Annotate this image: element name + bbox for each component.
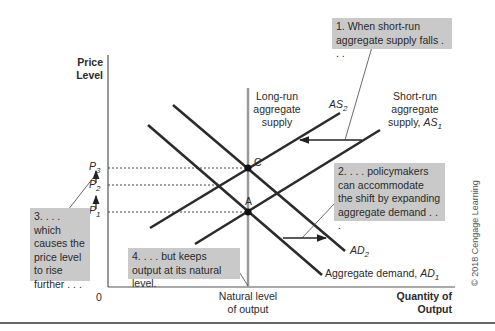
- p3-symbol: P: [89, 160, 96, 172]
- origin-label: 0: [96, 291, 102, 304]
- y-axis-label: Price Level: [70, 56, 103, 82]
- lras-label-line1: Long-run: [252, 90, 302, 103]
- natural-level-line2: of output: [208, 303, 288, 316]
- ad1-text: Aggregate demand,: [325, 267, 420, 279]
- p2-subscript: 2: [96, 184, 100, 193]
- p1-symbol: P: [89, 204, 96, 216]
- as2-subscript: 2: [343, 104, 347, 113]
- ad2-label: AD2: [350, 244, 369, 261]
- callout-step2: 2. . . . policymakers can accommodate th…: [334, 163, 445, 221]
- ad1-label: Aggregate demand, AD1: [325, 267, 439, 284]
- x-axis-label-line2: Output: [380, 303, 452, 316]
- p2-symbol: P: [89, 178, 96, 190]
- ad2-subscript: 2: [365, 250, 369, 259]
- lras-label-line3: supply: [252, 116, 302, 129]
- p3-subscript: 3: [96, 166, 100, 175]
- p1-subscript: 1: [96, 210, 100, 219]
- point-c-label: C: [254, 156, 262, 169]
- copyright-notice: © 2018 Cengage Learning: [470, 180, 480, 286]
- x-axis-label-line1: Quantity of: [380, 290, 452, 303]
- as2-symbol: AS: [329, 98, 343, 110]
- sras-label-line3: supply, AS1: [380, 116, 450, 133]
- callout-step1: 1. When short-run aggregate supply falls…: [332, 18, 452, 49]
- point-a: [245, 209, 252, 216]
- ad1-subscript: 1: [435, 273, 439, 282]
- callout-step4: 4. . . . but keeps output at its natural…: [128, 248, 240, 279]
- leader-step2: [302, 203, 335, 238]
- p3-label: P3: [89, 160, 100, 177]
- point-c: [245, 165, 252, 172]
- lras-label: Long-run aggregate supply: [252, 90, 302, 129]
- callout-step3: 3. . . . which causes the price level to…: [30, 208, 90, 281]
- lras-label-line2: aggregate: [252, 103, 302, 116]
- natural-level-line1: Natural level: [208, 290, 288, 303]
- x-axis-label: Quantity of Output: [380, 290, 452, 316]
- as2-label: AS2: [329, 98, 347, 115]
- point-a-label: A: [245, 195, 252, 208]
- sras-label-text: supply,: [388, 116, 423, 128]
- as1-symbol: AS: [423, 116, 437, 128]
- p2-label: P2: [89, 178, 100, 195]
- sras-label-line1: Short-run: [380, 90, 450, 103]
- ad2-symbol: AD: [350, 244, 365, 256]
- sras-label-line2: aggregate: [380, 103, 450, 116]
- y-axis-label-line2: Level: [70, 69, 103, 82]
- y-axis-label-line1: Price: [70, 56, 103, 69]
- natural-level-label: Natural level of output: [208, 290, 288, 316]
- sras-label: Short-run aggregate supply, AS1: [380, 90, 450, 133]
- ad1-symbol: AD: [420, 267, 435, 279]
- p1-label: P1: [89, 204, 100, 221]
- leader-step1: [345, 47, 372, 140]
- as1-subscript: 1: [437, 122, 441, 131]
